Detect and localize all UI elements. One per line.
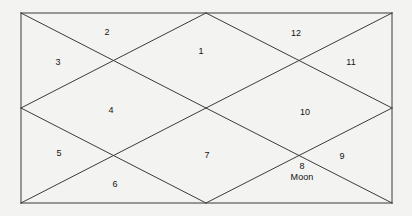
- house-number-label: 2: [104, 27, 109, 38]
- house-1: 1: [198, 46, 203, 57]
- house-10: 10: [300, 107, 310, 118]
- house-4: 4: [108, 105, 113, 116]
- house-8: 8Moon: [291, 161, 314, 183]
- house-number-label: 3: [55, 57, 60, 68]
- chart-lines-group: [21, 13, 392, 203]
- house-number-label: 7: [204, 150, 209, 161]
- chart-lines-svg: [0, 0, 412, 216]
- house-11: 11: [346, 57, 356, 68]
- house-number-label: 6: [112, 179, 117, 190]
- house-number-label: 8: [291, 161, 314, 172]
- house-number-label: 9: [339, 151, 344, 162]
- house-3: 3: [55, 57, 60, 68]
- birth-chart: 12345678Moon9101112: [0, 0, 412, 216]
- house-number-label: 4: [108, 105, 113, 116]
- house-7: 7: [204, 150, 209, 161]
- house-number-label: 12: [291, 28, 301, 39]
- house-12: 12: [291, 28, 301, 39]
- house-number-label: 10: [300, 107, 310, 118]
- house-number-label: 1: [198, 46, 203, 57]
- house-9: 9: [339, 151, 344, 162]
- house-6: 6: [112, 179, 117, 190]
- house-number-label: 5: [56, 148, 61, 159]
- house-planet-label: Moon: [291, 172, 314, 183]
- house-2: 2: [104, 27, 109, 38]
- house-5: 5: [56, 148, 61, 159]
- house-number-label: 11: [346, 57, 356, 68]
